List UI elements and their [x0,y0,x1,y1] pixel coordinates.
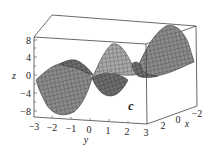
x-axis-label: x [184,118,190,129]
surface-peak-middle [92,44,140,78]
y-tick-label: −2 [47,122,58,133]
z-tick-label: 0 [26,70,31,81]
y-tick-label: 2 [125,126,130,137]
z-tick-label: 4 [26,52,31,63]
y-tick-label: −1 [66,123,77,134]
z-tick-label: −4 [20,88,31,99]
surface-plot: 8 4 0 −4 −8 z −3 −2 −1 0 1 2 3 y 2 0 −2 … [0,0,211,150]
z-tick-label: 8 [26,35,31,46]
y-axis-label: y [83,134,89,145]
surface-peak-right [136,25,194,76]
y-tick-label: −3 [29,121,40,132]
panel-label: c [128,99,134,113]
x-tick-label: 2 [161,120,166,131]
z-axis-ticks [34,40,37,111]
z-axis-label: z [11,70,16,81]
x-tick-label: 0 [176,114,181,125]
y-tick-label: 3 [144,127,149,138]
z-tick-label: −8 [20,106,31,117]
surface-trough-middle [92,73,128,96]
y-tick-label: 1 [106,125,111,136]
x-tick-label: −2 [192,108,203,119]
